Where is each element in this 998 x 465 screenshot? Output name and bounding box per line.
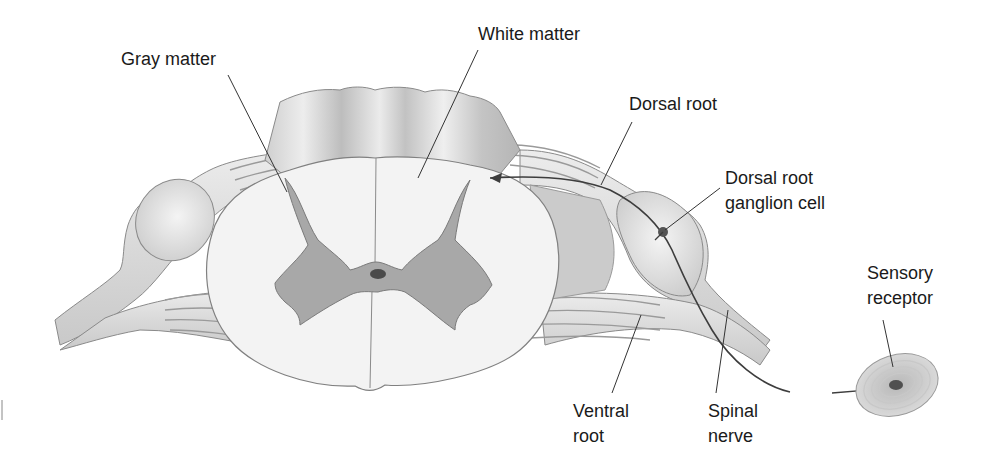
- label-gray-matter: Gray matter: [121, 47, 216, 72]
- label-spinal-nerve: Spinal nerve: [708, 399, 758, 449]
- label-ventral-root: Ventral root: [573, 399, 629, 449]
- spinal-cord: [207, 87, 559, 390]
- central-canal: [370, 269, 386, 279]
- label-dorsal-root-ganglion-cell: Dorsal root ganglion cell: [725, 166, 825, 216]
- leader-dorsal-root: [601, 122, 632, 185]
- label-sensory-receptor: Sensory receptor: [867, 261, 933, 311]
- spinal-cord-diagram: Gray matter White matter Dorsal root Dor…: [0, 0, 998, 465]
- label-white-matter: White matter: [478, 22, 580, 47]
- sensory-receptor: [848, 343, 946, 426]
- label-dorsal-root: Dorsal root: [629, 92, 717, 117]
